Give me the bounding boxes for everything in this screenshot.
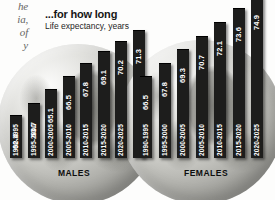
males-bar-period-1995-2000: 1995-2000 [28,114,40,156]
males-bar-value-2010-2015: 67.8 [80,67,92,97]
females-bar-period-1990-1995: 1990-1995 [140,114,152,156]
males-bar-1990-1995: 62.41990-1995 [10,115,22,158]
males-bar-period-2000-2005: 2000-2005 [45,114,57,156]
females-bar-value-1990-1995: 66.5 [140,80,152,110]
females-bar-1995-2000: 67.81995-2000 [159,63,171,158]
females-bar-2020-2025: 74.92020-2025 [251,0,263,158]
females-bar-period-2005-2010: 2005-2010 [196,114,208,156]
females-bar-value-2015-2020: 73.6 [233,12,245,42]
males-bar-period-2005-2010: 2005-2010 [63,114,75,156]
chart-title: ...for how long [45,8,129,20]
females-bar-value-2005-2010: 70.7 [196,40,208,70]
males-bar-2010-2015: 67.82010-2015 [80,63,92,158]
males-bar-period-2015-2020: 2015-2020 [98,114,110,156]
males-bar-extra-value: 71.3 [133,34,145,64]
males-bar-period-2020-2025: 2020-2025 [115,114,127,156]
males-bar-1995-2000: 63.71995-2000 [28,103,40,158]
females-bar-2010-2015: 72.12010-2015 [214,22,226,158]
males-bar-2005-2010: 66.52005-2010 [63,76,75,158]
males-bar-value-2005-2010: 66.5 [63,80,75,110]
females-bar-period-2020-2025: 2020-2025 [251,114,263,156]
females-bar-value-1995-2000: 67.8 [159,67,171,97]
females-bar-period-2010-2015: 2010-2015 [214,114,226,156]
males-bar-period-2010-2015: 2010-2015 [80,114,92,156]
females-bar-2000-2005: 69.32000-2005 [177,49,189,158]
chart-headline: ...for how long Life expectancy, years [45,8,129,32]
males-bar-period-1990-1995: 1990-1995 [10,114,22,156]
females-bar-period-1995-2000: 1995-2000 [159,114,171,156]
females-bar-value-2010-2015: 72.1 [214,26,226,56]
males-bar-2020-2025: 70.22020-2025 [115,41,127,158]
group-label-males: MALES [14,168,134,178]
males-bar-value-2015-2020: 69.1 [98,55,110,85]
males-bar-2015-2020: 69.12015-2020 [98,51,110,158]
females-bar-period-2000-2005: 2000-2005 [177,114,189,156]
males-bar-value-2020-2025: 70.2 [115,45,127,75]
females-bar-2015-2020: 73.62015-2020 [233,8,245,158]
group-label-females: FEMALES [146,168,266,178]
females-bar-2005-2010: 70.72005-2010 [196,36,208,158]
females-bar-value-2000-2005: 69.3 [177,53,189,83]
females-bar-1990-1995: 66.51990-1995 [140,76,152,158]
females-bar-period-2015-2020: 2015-2020 [233,114,245,156]
infographic-canvas: he ia, of y ...for how long Life expecta… [0,0,275,200]
males-bar-2000-2005: 65.12000-2005 [45,89,57,158]
chart-subtitle: Life expectancy, years [45,21,129,32]
females-bar-value-2020-2025: 74.9 [251,0,263,30]
